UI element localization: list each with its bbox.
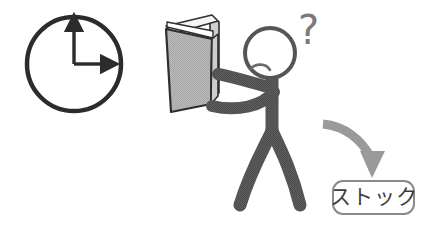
- clock: [27, 17, 121, 111]
- open-book: [166, 15, 219, 112]
- book-front-cover: [166, 29, 212, 112]
- illustration-svg: ? ストック: [0, 0, 425, 228]
- illustration-canvas: ? ストック: [0, 0, 425, 228]
- stock-callout[interactable]: ストック: [330, 181, 418, 214]
- callout-label: ストック: [330, 185, 418, 209]
- question-mark-icon: ?: [298, 7, 320, 53]
